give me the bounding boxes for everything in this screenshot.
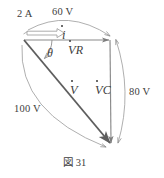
arc-80v xyxy=(116,40,125,143)
label-current-magnitude: 2 A xyxy=(17,9,32,20)
label-vr-phasor: V R xyxy=(68,44,83,57)
label-resistor-voltage-magnitude: 60 V xyxy=(52,7,73,18)
arc-100v xyxy=(22,45,106,147)
label-v-phasor: V xyxy=(70,84,78,97)
figure-container: 2 A 60 V i θ V R V V C 80 V 100 V 図 31 xyxy=(0,0,164,178)
figure-caption: 図 31 xyxy=(63,158,86,169)
label-current-phasor: i xyxy=(62,29,65,42)
label-capacitor-voltage-magnitude: 80 V xyxy=(129,87,150,98)
label-phase-angle: θ xyxy=(47,47,53,59)
label-total-voltage-magnitude: 100 V xyxy=(14,104,41,115)
current-phasor-arrow xyxy=(27,29,65,38)
label-vc-phasor: V C xyxy=(95,84,111,97)
subscript-c: C xyxy=(103,83,111,97)
subscript-r: R xyxy=(76,43,83,57)
overdot-icon xyxy=(61,25,63,27)
